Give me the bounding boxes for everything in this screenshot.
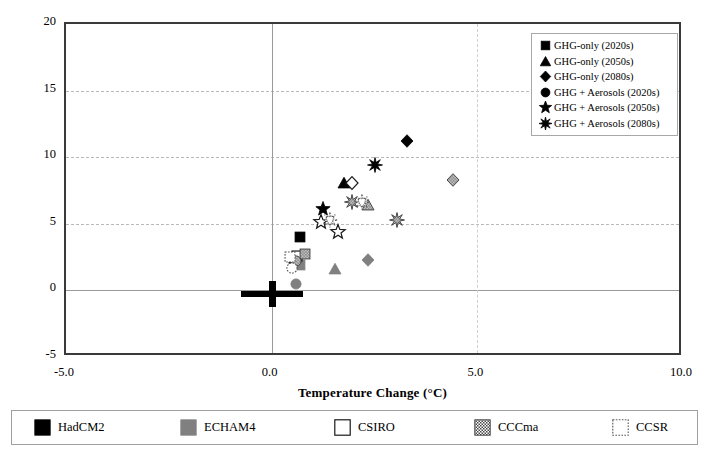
diamond-icon <box>536 70 554 83</box>
data-point <box>390 212 405 227</box>
model-legend-item-echam4: ECHAM4 <box>180 419 255 436</box>
data-point <box>400 134 415 149</box>
star8-icon <box>536 117 554 130</box>
star5-icon <box>536 101 554 114</box>
data-point <box>323 212 338 227</box>
model-legend-item-cccma: CCCma <box>474 419 538 436</box>
series-legend-label: GHG-only (2020s) <box>554 40 634 51</box>
y-tick-5: 5 <box>20 214 56 229</box>
circle-icon <box>536 86 554 99</box>
data-point <box>293 230 308 245</box>
y-tick--5: -5 <box>20 347 56 362</box>
data-point <box>344 175 359 190</box>
model-swatch-csiro <box>334 419 351 436</box>
model-legend-item-ccsr: CCSR <box>612 419 668 436</box>
y-tick-10: 10 <box>20 147 56 162</box>
data-point <box>361 252 376 267</box>
series-legend-row: GHG + Aerosols (2050s) <box>536 100 672 116</box>
y-tick-0: 0 <box>20 280 56 295</box>
model-swatch-cccma <box>474 419 491 436</box>
model-legend-label: CCSR <box>636 420 668 435</box>
model-legend-label: ECHAM4 <box>204 420 255 435</box>
series-legend-label: GHG + Aerosols (2050s) <box>554 102 659 113</box>
model-legend-item-csiro: CSIRO <box>334 419 395 436</box>
data-point <box>367 158 382 173</box>
model-legend-label: CCCma <box>498 420 538 435</box>
model-swatch-hadcm2 <box>34 419 51 436</box>
gridline-y-5 <box>66 224 679 225</box>
model-legend-label: HadCM2 <box>58 420 105 435</box>
y-tick-15: 15 <box>20 81 56 96</box>
data-point <box>445 172 460 187</box>
series-legend-row: GHG-only (2050s) <box>536 54 672 70</box>
gridline-x-5 <box>477 24 478 353</box>
series-legend-row: GHG-only (2020s) <box>536 38 672 54</box>
series-legend-row: GHG-only (2080s) <box>536 69 672 85</box>
model-legend-item-hadcm2: HadCM2 <box>34 419 105 436</box>
x-tick-5.0: 5.0 <box>445 365 505 380</box>
x-axis-title: Temperature Change (°C) <box>64 385 681 401</box>
series-legend-label: GHG-only (2080s) <box>554 71 634 82</box>
model-legend-label: CSIRO <box>358 420 395 435</box>
square-icon <box>536 39 554 52</box>
chart-root: Precipitation Change (%) -505101520 -5.0… <box>0 0 709 454</box>
x-tick-10.0: 10.0 <box>651 365 709 380</box>
model-legend: HadCM2 ECHAM4 CSIRO CCCma CCSR <box>11 410 698 445</box>
data-point <box>328 262 343 277</box>
data-point <box>355 195 370 210</box>
y-tick-20: 20 <box>20 14 56 29</box>
model-swatch-echam4 <box>180 419 197 436</box>
model-swatch-ccsr <box>612 419 629 436</box>
series-legend-row: GHG + Aerosols (2020s) <box>536 85 672 101</box>
series-legend-label: GHG + Aerosols (2080s) <box>554 118 659 129</box>
triangle-icon <box>536 55 554 68</box>
series-legend: GHG-only (2020s) GHG-only (2050s) GHG-on… <box>531 33 678 136</box>
gridline-y-0 <box>66 290 679 291</box>
data-point <box>285 260 300 275</box>
series-legend-row: GHG + Aerosols (2080s) <box>536 116 672 132</box>
series-legend-label: GHG-only (2050s) <box>554 56 634 67</box>
baseline-cross-marker <box>241 281 303 307</box>
x-tick--5.0: -5.0 <box>34 365 94 380</box>
series-legend-label: GHG + Aerosols (2020s) <box>554 87 659 98</box>
x-tick-0.0: 0.0 <box>240 365 300 380</box>
